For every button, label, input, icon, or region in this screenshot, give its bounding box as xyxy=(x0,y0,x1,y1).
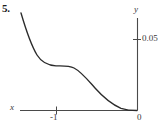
x-axis-tick-label-neg1: -1 xyxy=(50,113,58,122)
x-axis-label: x xyxy=(10,103,14,112)
x-axis-tick-label-zero: 0 xyxy=(137,113,142,122)
problem-number-label: 5. xyxy=(2,3,10,14)
figure-container: 5. y x 0.05 -1 0 xyxy=(0,0,162,135)
y-axis-label: y xyxy=(134,5,138,14)
y-axis-tick-label-005: 0.05 xyxy=(142,34,158,43)
curve-path xyxy=(21,13,137,111)
